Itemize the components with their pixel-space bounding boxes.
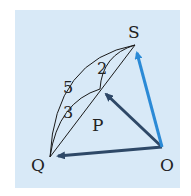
point-label-p: P (92, 115, 103, 135)
point-label-q: Q (31, 155, 45, 175)
ratio-label-3: 3 (63, 103, 73, 122)
point-label-o: O (160, 155, 174, 175)
vector-os-arrow (137, 53, 162, 147)
ratio-label-5: 5 (63, 78, 73, 97)
vector-diagram: S O Q P 5 3 2 (0, 0, 191, 196)
point-label-s: S (128, 22, 140, 42)
vector-oq-arrow (58, 147, 162, 156)
ratio-label-2: 2 (97, 59, 107, 78)
